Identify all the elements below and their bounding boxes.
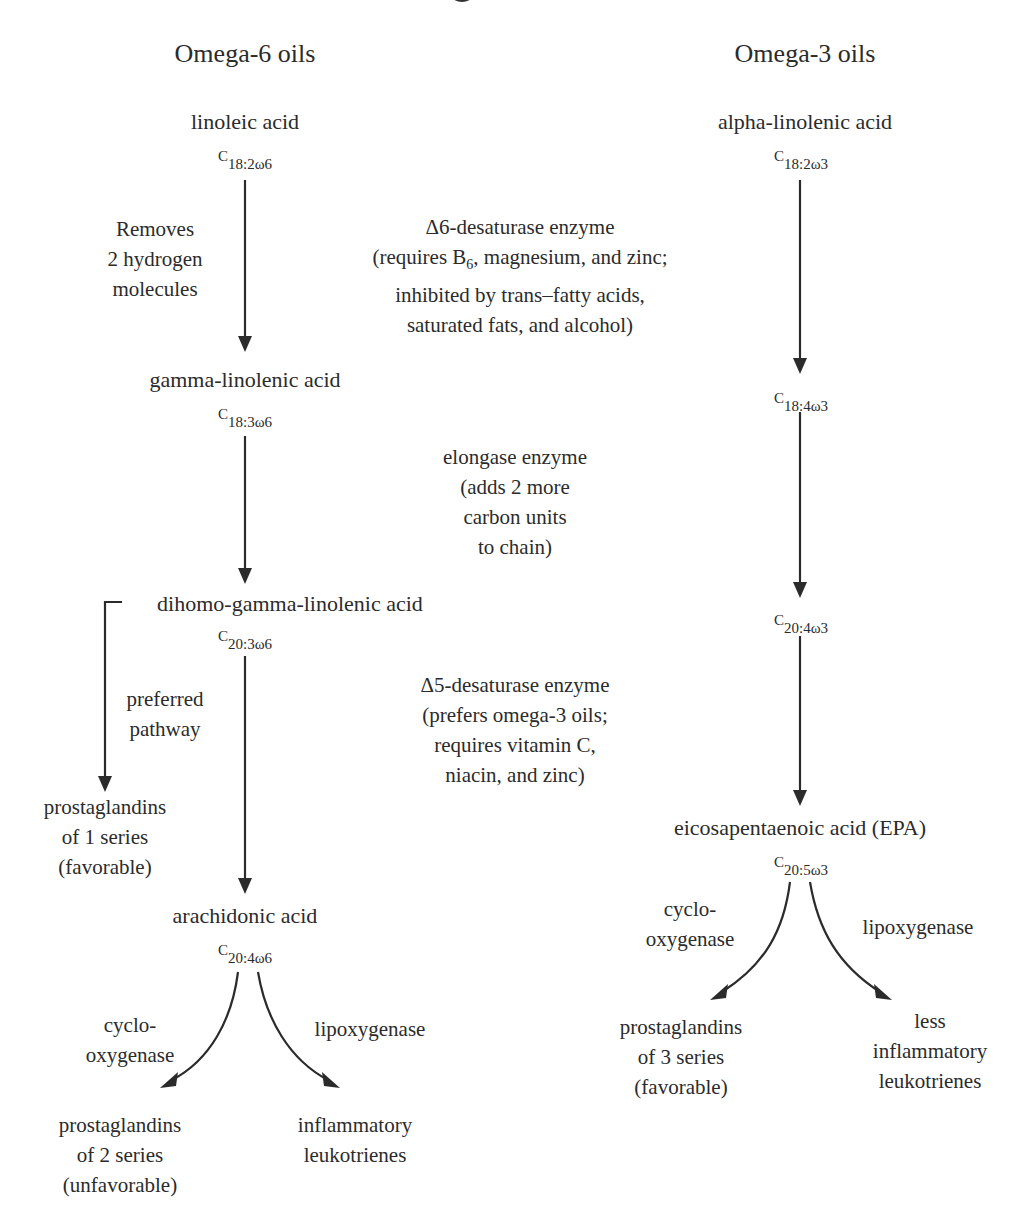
- arrow-preferred-pathway: [105, 602, 122, 778]
- arrow-cyclooxygenase-3: [722, 882, 790, 992]
- pathway-arrows: [0, 0, 1025, 1221]
- arrow-cyclooxygenase-6: [172, 972, 238, 1080]
- arrow-lipoxygenase-6: [258, 972, 328, 1080]
- arrow-lipoxygenase-3: [810, 882, 880, 992]
